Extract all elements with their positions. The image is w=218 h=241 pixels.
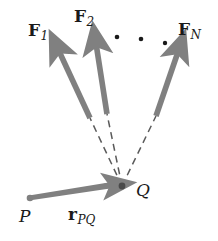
position-vector-label: rPQ (68, 206, 95, 226)
force-arrow-f1 (59, 50, 91, 118)
ellipsis-dots (115, 35, 168, 46)
position-vector-shaft (29, 182, 110, 200)
force-arrows (59, 44, 179, 119)
position-vector-head (104, 185, 117, 187)
position-vector-label-symbol: r (68, 204, 77, 224)
force-label-fn-subscript: N (191, 28, 202, 42)
force-label-f2-subscript: 2 (87, 15, 95, 29)
dashed-line-f1 (90, 118, 122, 186)
force-label-f2-symbol: F (74, 6, 86, 26)
position-vector-label-subscript: PQ (77, 213, 95, 227)
force-diagram: F1 F2 FN Q P rPQ (0, 0, 218, 241)
force-label-f1-subscript: 1 (41, 29, 49, 43)
force-label-f1-symbol: F (28, 20, 40, 40)
force-arrow-fn (156, 51, 179, 117)
position-vector-arrow (29, 182, 117, 200)
ellipsis-dot (139, 37, 144, 42)
force-arrow-f2 (96, 44, 107, 115)
point-q-node (119, 183, 126, 190)
point-label-q: Q (136, 182, 150, 199)
dashed-line-fn (122, 116, 156, 186)
ellipsis-dot (163, 41, 167, 45)
point-p-node (27, 195, 34, 202)
dashed-construction-lines (90, 114, 156, 186)
force-label-f2: F2 (74, 8, 94, 28)
force-label-fn-symbol: F (178, 19, 190, 39)
force-label-f1: F1 (28, 22, 48, 42)
force-label-fn: FN (178, 21, 201, 41)
ellipsis-dot (115, 35, 120, 40)
dashed-line-f2 (107, 114, 122, 186)
point-label-p: P (19, 208, 30, 225)
